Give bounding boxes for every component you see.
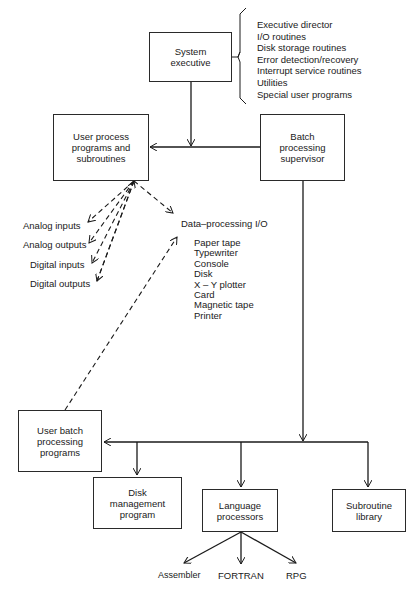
- digital-inputs-label: Digital inputs: [30, 259, 84, 270]
- digital-outputs-label: Digital outputs: [30, 278, 90, 289]
- user-process-label: User process programs and subroutines: [72, 131, 131, 164]
- system-executive-box: System executive: [149, 32, 232, 82]
- analog-outputs-label: Analog outputs: [23, 239, 86, 250]
- assembler-label: Assembler: [158, 570, 201, 581]
- batch-supervisor-label: Batch processing supervisor: [280, 131, 326, 164]
- rpg-label: RPG: [286, 570, 307, 581]
- language-processors-box: Language processors: [202, 489, 278, 532]
- language-processors-label: Language processors: [217, 500, 263, 522]
- subroutine-library-label: Subroutine library: [346, 500, 392, 522]
- disk-management-label: Disk management program: [110, 487, 165, 520]
- data-processing-io-title: Data–processing I/O: [181, 218, 268, 229]
- subroutine-library-box: Subroutine library: [332, 489, 406, 532]
- user-batch-box: User batch processing programs: [18, 410, 102, 472]
- component-item: Error detection/recovery: [257, 54, 362, 66]
- user-batch-label: User batch processing programs: [37, 425, 83, 458]
- device-item: Printer: [194, 311, 254, 321]
- component-item: Executive director: [257, 19, 362, 31]
- system-executive-components: Executive director I/O routines Disk sto…: [257, 19, 362, 100]
- fortran-label: FORTRAN: [218, 570, 264, 581]
- system-executive-label: System executive: [170, 46, 210, 68]
- component-item: Special user programs: [257, 89, 362, 101]
- disk-management-box: Disk management program: [93, 477, 182, 529]
- batch-supervisor-box: Batch processing supervisor: [260, 114, 345, 181]
- analog-inputs-label: Analog inputs: [23, 220, 81, 231]
- user-process-box: User process programs and subroutines: [53, 114, 149, 181]
- component-item: I/O routines: [257, 31, 362, 43]
- component-item: Interrupt service routines: [257, 65, 362, 77]
- data-processing-devices: Paper tape Typewriter Console Disk X – Y…: [194, 238, 254, 321]
- component-item: Utilities: [257, 77, 362, 89]
- component-item: Disk storage routines: [257, 42, 362, 54]
